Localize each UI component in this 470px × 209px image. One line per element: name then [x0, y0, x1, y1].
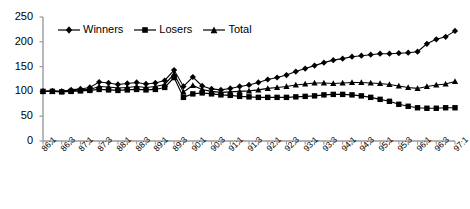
y-tick-label: 0	[5, 135, 33, 146]
y-tick-label: 150	[5, 61, 33, 72]
y-tick-label: 100	[5, 85, 33, 96]
y-tick-label: 50	[5, 110, 33, 121]
y-tick-label: 250	[5, 11, 33, 22]
y-tick-label: 200	[5, 36, 33, 47]
